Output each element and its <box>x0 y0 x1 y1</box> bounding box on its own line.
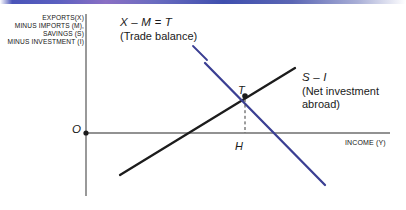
income-axis-point-label: H <box>235 140 243 153</box>
x-axis-label: INCOME (Y) <box>345 139 386 148</box>
origin-label: O <box>72 122 81 136</box>
y-axis-label-line-2: MINUS IMPORTS (M), <box>7 22 84 30</box>
y-axis-label-line-1: EXPORTS(X) <box>7 14 84 22</box>
y-axis-label-line-4: MINUS INVESTMENT (I) <box>7 38 84 46</box>
net-investment-equation-label: S – I <box>302 70 327 84</box>
y-axis-label: EXPORTS(X) MINUS IMPORTS (M), SAVINGS (S… <box>7 14 84 46</box>
intersection-point-label: T <box>238 84 245 97</box>
net-investment-description-line-2: abroad) <box>302 98 379 111</box>
origin-point-marker <box>83 130 88 135</box>
net-investment-abroad-line <box>120 68 295 175</box>
economics-chart-figure: EXPORTS(X) MINUS IMPORTS (M), SAVINGS (S… <box>0 0 406 210</box>
y-axis-label-line-3: SAVINGS (S) <box>7 30 84 38</box>
trade-balance-leader-line <box>193 46 207 60</box>
net-investment-description-line-1: (Net investment <box>302 85 379 98</box>
trade-balance-equation-label: X – M = T <box>120 15 172 29</box>
net-investment-description-label: (Net investment abroad) <box>302 85 379 110</box>
trade-balance-description-label: (Trade balance) <box>120 30 197 43</box>
